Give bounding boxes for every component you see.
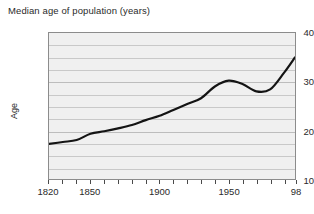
x-axis-tick-label: 98 (291, 186, 302, 197)
x-axis-tick (76, 180, 77, 184)
data-series-line (49, 33, 295, 179)
x-axis-tick-label: 1950 (219, 186, 240, 197)
x-axis-tick-label: 1900 (149, 186, 170, 197)
x-axis-tick (48, 180, 49, 184)
x-axis-tick (90, 180, 91, 184)
x-axis-tick (159, 180, 160, 184)
x-axis-tick (257, 180, 258, 184)
x-axis-tick (146, 180, 147, 184)
x-axis-tick (243, 180, 244, 184)
x-axis-tick (173, 180, 174, 184)
x-axis-tick (215, 180, 216, 184)
chart-title: Median age of population (years) (8, 5, 150, 16)
x-axis-tick (285, 180, 286, 184)
x-axis-tick (187, 180, 188, 184)
x-axis-tick-label: 1820 (37, 186, 58, 197)
x-axis-tick (229, 180, 230, 184)
median-age-path (49, 57, 295, 144)
x-axis-tick (104, 180, 105, 184)
y-axis-title: Age (9, 91, 19, 131)
x-axis-tick (132, 180, 133, 184)
x-axis-tick (271, 180, 272, 184)
plot-area (48, 32, 296, 180)
median-age-line-chart: Median age of population (years) Age 403… (0, 0, 314, 214)
x-axis-tick (296, 180, 297, 184)
x-axis-tick-label: 1850 (79, 186, 100, 197)
x-axis-tick (201, 180, 202, 184)
x-axis-tick (118, 180, 119, 184)
x-axis-tick (62, 180, 63, 184)
